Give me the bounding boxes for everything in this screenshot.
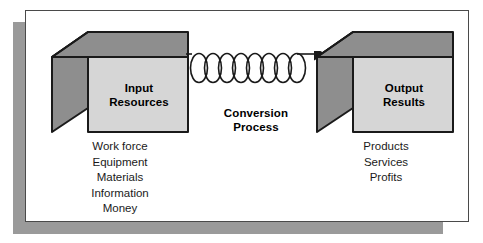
conversion-label-line2: Process <box>181 121 331 135</box>
cube-shape-icon <box>316 31 454 133</box>
list-item: Information <box>60 186 180 202</box>
list-item: Money <box>60 201 180 217</box>
diagram-canvas: Input Resources <box>0 0 483 243</box>
output-results-cube: Output Results <box>316 31 454 133</box>
input-resources-list: Work force Equipment Materials Informati… <box>60 139 180 217</box>
list-item: Services <box>326 155 446 171</box>
list-item: Products <box>326 139 446 155</box>
spring-coil-icon <box>186 51 326 96</box>
list-item: Equipment <box>60 155 180 171</box>
output-results-list: Products Services Profits <box>326 139 446 186</box>
list-item: Profits <box>326 170 446 186</box>
diagram-panel: Input Resources <box>25 10 469 222</box>
input-resources-cube: Input Resources <box>51 31 189 133</box>
list-item: Materials <box>60 170 180 186</box>
conversion-spring-arrow <box>186 51 326 96</box>
cube-shape-icon <box>51 31 189 133</box>
list-item: Work force <box>60 139 180 155</box>
conversion-label-line1: Conversion <box>181 107 331 121</box>
conversion-process-label: Conversion Process <box>181 107 331 134</box>
